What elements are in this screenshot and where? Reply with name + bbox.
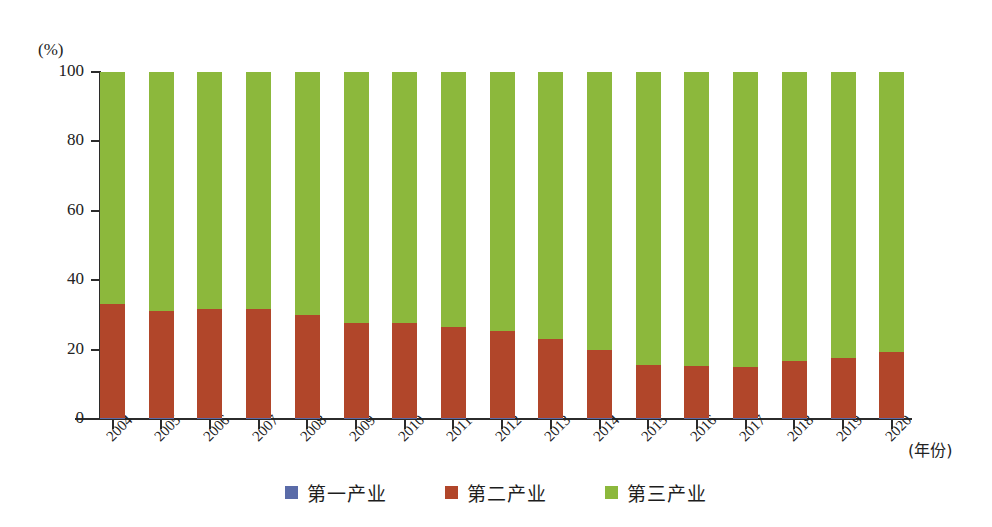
y-axis-tick-label: 0 <box>28 408 84 428</box>
bar-segment-primary <box>100 418 125 419</box>
bar-segment-primary <box>246 418 271 419</box>
stacked-bar-chart: (%) 020406080100 20042005200620072008200… <box>0 0 992 527</box>
chart-legend: 第一产业第二产业第三产业 <box>0 479 992 506</box>
legend-item[interactable]: 第一产业 <box>285 479 387 506</box>
y-axis-tick <box>91 140 100 142</box>
bar-segment-secondary <box>636 365 661 419</box>
y-axis-tick-label: 60 <box>28 200 84 220</box>
bar-segment-tertiary <box>636 72 661 365</box>
bar-group <box>831 72 856 419</box>
bar-segment-primary <box>782 418 807 419</box>
bar-segment-tertiary <box>344 72 369 323</box>
bar-segment-secondary <box>149 311 174 419</box>
bar-segment-secondary <box>782 361 807 418</box>
bar-segment-tertiary <box>100 72 125 304</box>
bar-segment-tertiary <box>733 72 758 367</box>
bar-segment-tertiary <box>538 72 563 339</box>
bar-segment-secondary <box>441 327 466 419</box>
bar-segment-primary <box>344 418 369 419</box>
bar-segment-primary <box>197 418 222 419</box>
legend-item-label: 第一产业 <box>307 479 387 506</box>
bar-group <box>733 72 758 419</box>
plot-area <box>100 72 912 419</box>
bar-segment-tertiary <box>684 72 709 366</box>
y-axis-tick-label: 40 <box>28 269 84 289</box>
bar-group <box>879 72 904 419</box>
bar-group <box>538 72 563 419</box>
y-axis-tick <box>91 349 100 351</box>
bar-group <box>149 72 174 419</box>
bar-segment-primary <box>149 418 174 419</box>
bar-segment-secondary <box>295 315 320 418</box>
bar-group <box>100 72 125 419</box>
bar-segment-primary <box>392 418 417 419</box>
legend-item-label: 第二产业 <box>467 479 547 506</box>
legend-swatch-icon <box>285 486 298 499</box>
legend-item[interactable]: 第二产业 <box>445 479 547 506</box>
bar-group <box>441 72 466 419</box>
bar-segment-secondary <box>100 304 125 419</box>
bar-segment-secondary <box>392 323 417 419</box>
bar-segment-primary <box>587 418 612 419</box>
bar-group <box>197 72 222 419</box>
bar-segment-tertiary <box>197 72 222 309</box>
bar-segment-secondary <box>538 339 563 418</box>
y-axis-tick <box>91 418 100 420</box>
bar-segment-primary <box>879 418 904 419</box>
bar-segment-tertiary <box>831 72 856 358</box>
bar-segment-tertiary <box>149 72 174 311</box>
bar-group <box>344 72 369 419</box>
bar-segment-secondary <box>587 350 612 419</box>
bar-segment-primary <box>684 418 709 419</box>
legend-swatch-icon <box>605 486 618 499</box>
bar-segment-secondary <box>684 366 709 418</box>
bar-group <box>636 72 661 419</box>
bar-segment-primary <box>490 418 515 419</box>
bar-segment-primary <box>538 418 563 419</box>
y-axis-tick <box>91 279 100 281</box>
bar-segment-secondary <box>344 323 369 419</box>
bar-segment-tertiary <box>782 72 807 361</box>
y-axis-tick-label: 20 <box>28 339 84 359</box>
bar-segment-secondary <box>733 367 758 418</box>
bar-group <box>295 72 320 419</box>
bar-group <box>684 72 709 419</box>
bar-segment-primary <box>295 418 320 419</box>
bar-group <box>587 72 612 419</box>
bar-group <box>246 72 271 419</box>
bar-segment-secondary <box>879 352 904 418</box>
bar-segment-secondary <box>831 358 856 419</box>
y-axis-tick-label: 100 <box>28 61 84 81</box>
bar-segment-primary <box>831 418 856 419</box>
bar-segment-secondary <box>246 309 271 419</box>
bar-segment-tertiary <box>392 72 417 323</box>
bar-segment-tertiary <box>879 72 904 352</box>
legend-swatch-icon <box>445 486 458 499</box>
bar-segment-secondary <box>197 309 222 418</box>
legend-item[interactable]: 第三产业 <box>605 479 707 506</box>
y-axis-tick <box>91 71 100 73</box>
bar-group <box>392 72 417 419</box>
bar-segment-tertiary <box>441 72 466 327</box>
bar-segment-primary <box>733 418 758 419</box>
bar-segment-tertiary <box>246 72 271 309</box>
bar-segment-tertiary <box>587 72 612 350</box>
bar-group <box>490 72 515 419</box>
bar-segment-secondary <box>490 331 515 418</box>
bar-segment-tertiary <box>490 72 515 331</box>
bar-segment-primary <box>636 418 661 419</box>
legend-item-label: 第三产业 <box>627 479 707 506</box>
y-axis-tick-label: 80 <box>28 130 84 150</box>
bar-segment-primary <box>441 418 466 419</box>
x-axis-title: (年份) <box>908 437 952 461</box>
y-axis-tick <box>91 210 100 212</box>
y-axis-unit-label: (%) <box>38 40 63 60</box>
bar-segment-tertiary <box>295 72 320 315</box>
bar-group <box>782 72 807 419</box>
